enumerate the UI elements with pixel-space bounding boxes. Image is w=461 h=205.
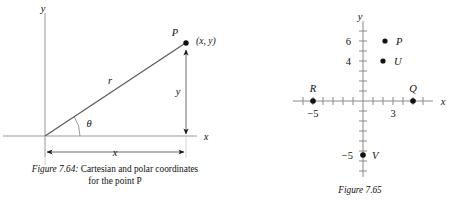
figure-7-64-caption-line1: Cartesian and polar coordinates <box>81 164 198 174</box>
point-U-label: U <box>394 56 403 67</box>
horizontal-leg-label: x <box>112 147 118 158</box>
point-P-label: P <box>171 27 179 38</box>
y-tick-label-6: 6 <box>346 36 351 47</box>
figure-sheet: y x P (x, y) r θ y x <box>0 0 461 205</box>
figure-7-65-caption: Figure 7.65 <box>300 184 420 196</box>
point-Q-label: Q <box>409 83 417 94</box>
vertical-leg-label: y <box>175 86 181 97</box>
angle-arc <box>74 117 80 136</box>
right-x-axis-label: x <box>440 96 446 107</box>
x-tick-label-minus5: −5 <box>307 108 318 119</box>
point-V-label: V <box>372 150 380 161</box>
point-P-label: P <box>395 36 403 47</box>
figure-7-64-group: y x P (x, y) r θ y x <box>3 3 216 165</box>
point-R-marker <box>310 98 316 104</box>
left-y-axis-label: y <box>40 3 46 14</box>
figure-7-64-caption: Figure 7.64: Cartesian and polar coordin… <box>0 163 230 187</box>
angle-theta-label: θ <box>86 118 91 129</box>
radius-line <box>45 44 184 136</box>
radius-label: r <box>108 75 113 86</box>
figure-7-65-group: y x 6 4 −5 −5 3 P U Q R V <box>293 11 446 177</box>
point-R-label: R <box>309 83 317 94</box>
y-tick-label-4: 4 <box>346 56 352 67</box>
y-tick-label-minus5: −5 <box>342 150 353 161</box>
figure-7-64-caption-line2: for the point P <box>0 175 230 187</box>
point-P-coordinates: (x, y) <box>196 35 216 47</box>
right-y-axis-label: y <box>357 11 363 22</box>
point-Q-marker <box>410 98 416 104</box>
figure-7-65-caption-label: Figure 7.65 <box>338 185 382 195</box>
left-x-axis-label: x <box>203 131 209 142</box>
figure-7-64-caption-label: Figure 7.64: <box>32 164 79 174</box>
point-P-marker <box>382 38 387 43</box>
point-P-marker <box>183 40 188 45</box>
point-U-marker <box>380 58 385 63</box>
point-V-marker <box>360 152 366 158</box>
x-tick-label-3: 3 <box>390 108 395 119</box>
